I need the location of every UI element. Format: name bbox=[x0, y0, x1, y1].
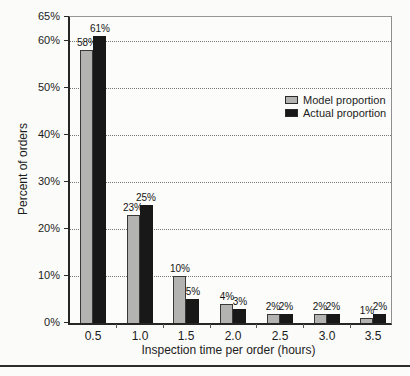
bar-label-model-1.5: 10% bbox=[166, 263, 194, 274]
legend-item-actual: Actual proportion bbox=[285, 106, 386, 119]
gridline-60 bbox=[70, 41, 391, 42]
bar-actual-1.0 bbox=[140, 205, 153, 323]
x-tick-label-3.0: 3.0 bbox=[310, 330, 344, 343]
legend: Model proportionActual proportion bbox=[285, 93, 386, 119]
y-tick-mark-30 bbox=[64, 181, 69, 182]
bar-actual-0.5 bbox=[93, 36, 106, 323]
y-tick-label-50: 50% bbox=[26, 82, 60, 93]
x-tick-label-3.5: 3.5 bbox=[356, 330, 390, 343]
bar-label-actual-0.5: 61% bbox=[86, 23, 114, 34]
y-tick-mark-60 bbox=[64, 40, 69, 41]
bottom-rule-divider bbox=[0, 365, 410, 367]
x-tick-label-2.5: 2.5 bbox=[263, 330, 297, 343]
legend-label-actual: Actual proportion bbox=[303, 107, 386, 119]
y-tick-label-10: 10% bbox=[26, 270, 60, 281]
x-tick-label-1.5: 1.5 bbox=[169, 330, 203, 343]
gridline-40 bbox=[70, 135, 391, 136]
plot-area: 58%61%23%25%10%5%4%3%2%2%2%2%1%2% bbox=[68, 16, 392, 325]
bar-model-1.5 bbox=[173, 276, 186, 323]
bar-model-1.0 bbox=[127, 215, 140, 323]
bar-actual-3.0 bbox=[327, 314, 340, 323]
x-tick-mark-4 bbox=[303, 324, 304, 328]
legend-label-model: Model proportion bbox=[303, 94, 386, 106]
bar-chart: Percent of orders 58%61%23%25%10%5%4%3%2… bbox=[0, 0, 410, 376]
bar-actual-2.5 bbox=[280, 314, 293, 323]
x-tick-mark-1 bbox=[163, 324, 164, 328]
y-tick-label-0: 0% bbox=[26, 317, 60, 328]
legend-swatch-icon-actual bbox=[285, 109, 298, 117]
y-tick-label-40: 40% bbox=[26, 129, 60, 140]
bar-label-actual-2.0: 3% bbox=[226, 296, 254, 307]
y-tick-label-20: 20% bbox=[26, 223, 60, 234]
legend-item-model: Model proportion bbox=[285, 93, 386, 106]
bar-label-actual-2.5: 2% bbox=[272, 301, 300, 312]
bar-actual-2.0 bbox=[233, 309, 246, 323]
y-tick-mark-40 bbox=[64, 134, 69, 135]
x-axis-title: Inspection time per order (hours) bbox=[68, 343, 389, 357]
y-tick-mark-50 bbox=[64, 87, 69, 88]
bar-actual-3.5 bbox=[373, 314, 386, 323]
bar-model-3.5 bbox=[360, 318, 373, 323]
gridline-10 bbox=[70, 276, 391, 277]
bar-label-actual-1.5: 5% bbox=[179, 286, 207, 297]
bar-actual-1.5 bbox=[186, 299, 199, 323]
x-tick-mark-3 bbox=[256, 324, 257, 328]
y-tick-label-65: 65% bbox=[26, 11, 60, 22]
y-tick-mark-65 bbox=[64, 16, 69, 17]
y-axis-title: Percent of orders bbox=[16, 104, 30, 234]
gridline-50 bbox=[70, 88, 391, 89]
gridline-30 bbox=[70, 182, 391, 183]
bar-label-actual-1.0: 25% bbox=[132, 192, 160, 203]
x-tick-label-0.5: 0.5 bbox=[76, 330, 110, 343]
bar-label-actual-3.0: 2% bbox=[319, 301, 347, 312]
y-tick-mark-20 bbox=[64, 228, 69, 229]
bar-model-0.5 bbox=[80, 50, 93, 323]
x-tick-mark-5 bbox=[350, 324, 351, 328]
bar-model-3.0 bbox=[314, 314, 327, 323]
x-tick-label-1.0: 1.0 bbox=[123, 330, 157, 343]
y-tick-mark-10 bbox=[64, 275, 69, 276]
y-tick-mark-0 bbox=[64, 322, 69, 323]
figure-page: Percent of orders 58%61%23%25%10%5%4%3%2… bbox=[0, 0, 410, 376]
x-tick-label-2.0: 2.0 bbox=[216, 330, 250, 343]
x-tick-mark-2 bbox=[210, 324, 211, 328]
y-tick-label-30: 30% bbox=[26, 176, 60, 187]
y-tick-label-60: 60% bbox=[26, 35, 60, 46]
x-tick-mark-0 bbox=[116, 324, 117, 328]
bar-label-actual-3.5: 2% bbox=[366, 301, 394, 312]
gridline-20 bbox=[70, 229, 391, 230]
legend-swatch-icon-model bbox=[285, 96, 298, 104]
bar-model-2.5 bbox=[267, 314, 280, 323]
